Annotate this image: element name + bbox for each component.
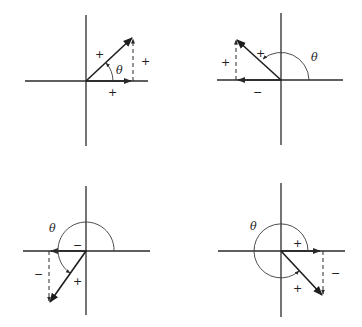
vector-sign-label: +: [256, 47, 265, 60]
theta-label: θ: [116, 64, 123, 77]
theta-label: θ: [250, 220, 257, 233]
x-component-sign-label: +: [108, 86, 117, 99]
y-component-sign-label: +: [221, 56, 230, 69]
vector-arrow: [86, 38, 132, 81]
y-component-sign-label: −: [331, 267, 340, 280]
vector-sign-label: +: [95, 48, 104, 61]
panel-quadrant-4: θ + − +: [218, 183, 345, 317]
quadrant-figure: + θ + + + θ + − θ − − + θ +: [0, 0, 362, 327]
theta-label: θ: [49, 222, 56, 235]
panel-quadrant-2: + θ + −: [217, 13, 343, 145]
panel-quadrant-3: θ − − +: [23, 186, 150, 315]
vector-sign-label: +: [293, 282, 302, 295]
panel-quadrant-1: + θ + +: [25, 15, 150, 146]
x-component-sign-label: −: [73, 239, 82, 252]
vector-arrow: [237, 40, 281, 80]
theta-arc: [263, 52, 309, 80]
vector-sign-label: +: [73, 275, 82, 288]
y-component-sign-label: −: [34, 268, 43, 281]
x-component-sign-label: +: [293, 237, 302, 250]
y-component-sign-label: +: [141, 55, 150, 68]
theta-arc: [106, 63, 113, 81]
x-component-sign-label: −: [253, 86, 262, 99]
theta-label: θ: [311, 51, 318, 64]
